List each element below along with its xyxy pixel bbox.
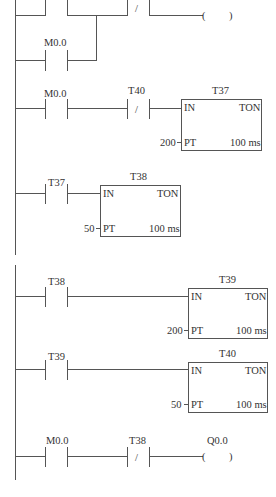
coil-label: Q0.0 xyxy=(207,435,228,446)
timer-name: T39 xyxy=(219,274,236,285)
contact-nc-icon: / xyxy=(128,0,150,16)
timer-pt-label: PT xyxy=(191,399,204,410)
contact-label: T38 xyxy=(48,276,65,287)
rung-1: / ( ) M0.0 xyxy=(15,0,233,71)
contact-label: T37 xyxy=(48,177,65,188)
timer-base-label: 100 ms xyxy=(236,325,267,336)
timer-pt-label: PT xyxy=(103,223,116,234)
timer-pt-value: 200 xyxy=(160,137,176,148)
timer-type-label: TON xyxy=(239,102,261,113)
nc-slash: / xyxy=(135,452,138,463)
contact-no-icon xyxy=(46,50,68,71)
timer-base-label: 100 ms xyxy=(149,223,180,234)
coil-open: ( xyxy=(202,451,206,463)
timer-base-label: 100 ms xyxy=(230,137,261,148)
contact-label: M0.0 xyxy=(44,37,66,48)
coil-icon: ( ) xyxy=(202,451,233,463)
coil-close: ) xyxy=(229,10,233,22)
timer-box-t38: T38 IN TON PT 100 ms 50 xyxy=(84,171,181,237)
contact-label: M0.0 xyxy=(44,88,66,99)
timer-name: T38 xyxy=(130,171,147,182)
rung-4: T38 T39 IN TON PT 100 ms 200 xyxy=(15,274,268,339)
timer-pt-value: 50 xyxy=(84,223,95,234)
rung-2: M0.0 T40 / T37 IN TON PT 100 ms 200 xyxy=(15,85,262,151)
contact-no-icon xyxy=(46,287,68,307)
ladder-diagram: / ( ) M0.0 M0.0 T40 / T37 xyxy=(0,0,276,497)
contact-no-icon xyxy=(46,360,68,380)
rung-3: T37 T38 IN TON PT 100 ms 50 xyxy=(15,171,181,237)
timer-type-label: TON xyxy=(245,365,267,376)
timer-box-t39: T39 IN TON PT 100 ms 200 xyxy=(167,274,268,339)
timer-base-label: 100 ms xyxy=(236,399,267,410)
coil-close: ) xyxy=(229,451,233,463)
timer-pt-label: PT xyxy=(191,325,204,336)
timer-in-label: IN xyxy=(103,188,114,199)
contact-no-icon xyxy=(46,99,68,119)
contact-no-icon xyxy=(46,447,68,467)
contact-label: T39 xyxy=(48,351,65,362)
timer-in-label: IN xyxy=(184,102,195,113)
timer-pt-value: 200 xyxy=(167,325,183,336)
contact-nc-icon: / xyxy=(128,447,150,467)
timer-name: T40 xyxy=(219,348,236,359)
contact-nc-icon: / xyxy=(128,99,150,119)
timer-name: T37 xyxy=(212,85,229,96)
timer-type-label: TON xyxy=(245,291,267,302)
timer-pt-value: 50 xyxy=(171,399,182,410)
timer-box-t40: T40 IN TON PT 100 ms 50 xyxy=(171,348,268,413)
nc-slash: / xyxy=(135,104,138,115)
contact-label: T38 xyxy=(129,435,146,446)
contact-label: T40 xyxy=(128,85,145,96)
nc-slash: / xyxy=(135,3,138,14)
coil-icon: ( ) xyxy=(202,10,233,22)
timer-pt-label: PT xyxy=(184,137,197,148)
coil-open: ( xyxy=(202,10,206,22)
contact-label: M0.0 xyxy=(46,435,68,446)
timer-in-label: IN xyxy=(191,365,202,376)
contact-no-icon xyxy=(46,0,68,16)
rung-6: M0.0 T38 / Q0.0 ( ) xyxy=(15,435,233,467)
timer-in-label: IN xyxy=(191,291,202,302)
rung-5: T39 T40 IN TON PT 100 ms 50 xyxy=(15,348,268,413)
timer-type-label: TON xyxy=(157,188,179,199)
timer-box-t37: T37 IN TON PT 100 ms 200 xyxy=(160,85,262,151)
